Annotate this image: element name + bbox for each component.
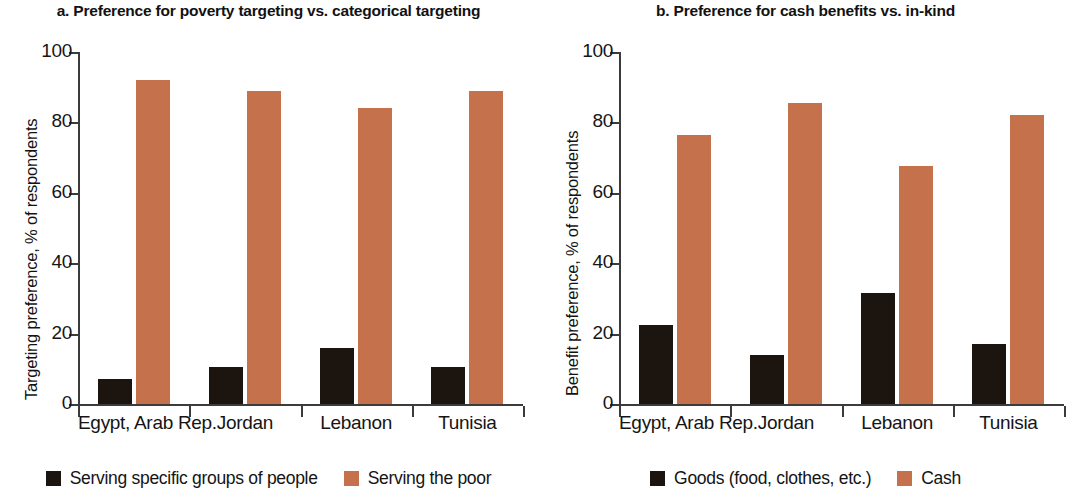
x-tick-mark bbox=[1064, 406, 1066, 417]
bar bbox=[431, 367, 465, 404]
panel-b-plot-area: 020406080100 bbox=[619, 52, 1064, 404]
panel-b-bars bbox=[619, 52, 1064, 404]
y-tick-label: 20 bbox=[51, 322, 72, 344]
y-tick-label: 80 bbox=[592, 110, 613, 132]
bar bbox=[320, 348, 354, 404]
bar bbox=[136, 80, 170, 404]
bar-group bbox=[320, 52, 392, 404]
x-axis-label: Tunisia bbox=[953, 412, 1064, 434]
x-axis-label: Jordan bbox=[730, 412, 841, 434]
panel-a-bars bbox=[78, 52, 523, 404]
x-tick-mark bbox=[523, 406, 525, 417]
bar bbox=[639, 325, 673, 404]
x-axis-label: Tunisia bbox=[412, 412, 523, 434]
panel-b-y-axis-title: Benefit preference, % of respondents bbox=[563, 131, 582, 396]
chart-panel-b: b. Preference for cash benefits vs. in-k… bbox=[537, 0, 1074, 500]
y-tick-label: 0 bbox=[603, 392, 613, 414]
bar bbox=[899, 166, 933, 404]
legend-label: Goods (food, clothes, etc.) bbox=[674, 468, 871, 489]
bar bbox=[1010, 115, 1044, 404]
legend-label: Cash bbox=[921, 468, 961, 489]
bar bbox=[358, 108, 392, 404]
legend-item: Serving the poor bbox=[344, 468, 492, 489]
panel-a-legend: Serving specific groups of peopleServing… bbox=[0, 468, 537, 489]
bar bbox=[98, 379, 132, 404]
y-tick-label: 60 bbox=[592, 181, 613, 203]
legend-item: Serving specific groups of people bbox=[46, 468, 318, 489]
legend-swatch-icon bbox=[897, 471, 912, 486]
legend-item: Goods (food, clothes, etc.) bbox=[650, 468, 871, 489]
bar bbox=[861, 293, 895, 404]
y-tick-label: 100 bbox=[582, 40, 613, 62]
panel-b-legend: Goods (food, clothes, etc.)Cash bbox=[537, 468, 1074, 489]
y-tick-label: 0 bbox=[62, 392, 72, 414]
panel-b-title: b. Preference for cash benefits vs. in-k… bbox=[537, 2, 1074, 20]
bar bbox=[469, 91, 503, 404]
panel-b-x-labels: Egypt, Arab Rep.JordanLebanonTunisia bbox=[619, 412, 1064, 442]
legend-item: Cash bbox=[897, 468, 961, 489]
panel-a-x-labels: Egypt, Arab Rep.JordanLebanonTunisia bbox=[78, 412, 523, 442]
bar-group bbox=[972, 52, 1044, 404]
bar-group bbox=[209, 52, 281, 404]
x-axis-label: Egypt, Arab Rep. bbox=[619, 412, 730, 434]
y-tick-label: 40 bbox=[51, 251, 72, 273]
legend-swatch-icon bbox=[650, 471, 665, 486]
legend-label: Serving specific groups of people bbox=[70, 468, 318, 489]
bar bbox=[788, 103, 822, 404]
panel-a-plot-area: 020406080100 bbox=[78, 52, 523, 404]
legend-swatch-icon bbox=[344, 471, 359, 486]
bar-group bbox=[750, 52, 822, 404]
y-tick-label: 20 bbox=[592, 322, 613, 344]
panel-a-y-axis-title: Targeting preference, % of respondents bbox=[22, 119, 41, 400]
legend-swatch-icon bbox=[46, 471, 61, 486]
bar-group bbox=[639, 52, 711, 404]
figure: a. Preference for poverty targeting vs. … bbox=[0, 0, 1074, 500]
y-tick-label: 60 bbox=[51, 181, 72, 203]
y-tick-label: 80 bbox=[51, 110, 72, 132]
bar bbox=[677, 135, 711, 404]
bar bbox=[209, 367, 243, 404]
x-axis-label: Lebanon bbox=[842, 412, 953, 434]
y-tick-label: 40 bbox=[592, 251, 613, 273]
panel-a-title: a. Preference for poverty targeting vs. … bbox=[0, 2, 537, 20]
x-axis-label: Jordan bbox=[189, 412, 300, 434]
bar bbox=[247, 91, 281, 404]
y-tick-label: 100 bbox=[41, 40, 72, 62]
bar-group bbox=[861, 52, 933, 404]
bar-group bbox=[431, 52, 503, 404]
bar bbox=[750, 355, 784, 404]
bar bbox=[972, 344, 1006, 404]
chart-panel-a: a. Preference for poverty targeting vs. … bbox=[0, 0, 537, 500]
x-axis-label: Lebanon bbox=[301, 412, 412, 434]
bar-group bbox=[98, 52, 170, 404]
x-axis-label: Egypt, Arab Rep. bbox=[78, 412, 189, 434]
legend-label: Serving the poor bbox=[368, 468, 492, 489]
